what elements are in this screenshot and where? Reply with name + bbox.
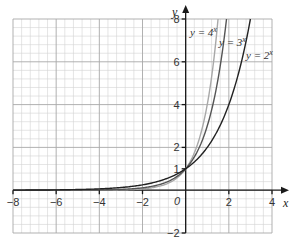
svg-text:4: 4 [269, 196, 275, 208]
svg-text:−2: −2 [136, 196, 149, 208]
svg-text:2: 2 [174, 141, 180, 153]
label-4x: y = 4x [189, 25, 217, 38]
svg-text:4: 4 [174, 99, 180, 111]
label-3x: y = 3x [218, 35, 246, 48]
svg-text:−4: −4 [93, 196, 106, 208]
svg-text:−6: −6 [50, 196, 63, 208]
origin-label: 0 [174, 195, 181, 207]
label-2x: y = 2x [245, 48, 273, 61]
svg-text:−2: −2 [167, 227, 180, 239]
exponential-functions-chart: −8−6−4−224−212468 x y 0 y = 4x y = 3x y … [0, 0, 296, 247]
y-axis-label: y [171, 5, 178, 19]
svg-text:−8: −8 [7, 196, 20, 208]
svg-text:2: 2 [226, 196, 232, 208]
x-axis-label: x [282, 196, 289, 210]
svg-text:1: 1 [174, 163, 180, 175]
svg-text:6: 6 [174, 56, 180, 68]
